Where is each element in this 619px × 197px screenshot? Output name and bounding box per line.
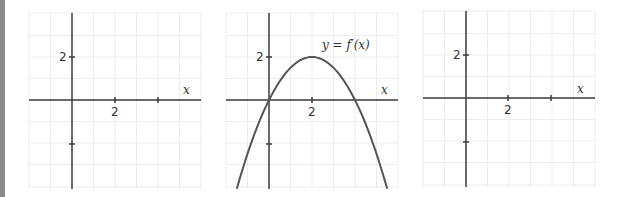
x-tick-label-right: 2 — [504, 103, 512, 117]
graphs-figure: 2 2 x 2 2 x y = f′(x) — [0, 0, 619, 197]
x-axis-label-right: x — [577, 82, 584, 96]
y-tick-label-left: 2 — [59, 50, 67, 64]
y-tick-label-right: 2 — [453, 48, 461, 62]
x-axis-label-middle: x — [381, 83, 388, 97]
grid-right — [423, 11, 595, 187]
curve-annotation: y = f′(x) — [321, 38, 370, 52]
panel-left: 2 2 x — [29, 13, 201, 189]
x-tick-label-left: 2 — [111, 105, 119, 119]
x-tick-label-middle: 2 — [308, 105, 316, 119]
x-axis-label-left: x — [183, 83, 190, 97]
panel-middle: 2 2 x y = f′(x) — [226, 13, 398, 189]
y-tick-label-middle: 2 — [256, 50, 264, 64]
panel-right: 2 2 x — [423, 11, 595, 187]
